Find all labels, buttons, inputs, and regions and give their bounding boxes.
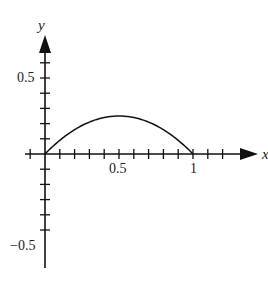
x-axis-label: x [261, 146, 268, 162]
chart-canvas: x y 0.5 1 0.5 −0.5 [0, 0, 268, 283]
y-axis-label: y [36, 17, 45, 33]
function-curve [45, 116, 193, 154]
y-tick-label-neg-0.5: −0.5 [10, 238, 35, 253]
x-tick-label-1: 1 [190, 161, 197, 176]
x-axis-arrow-icon [240, 148, 258, 160]
y-axis-arrow-icon [39, 35, 51, 53]
tick-marks [30, 63, 222, 230]
x-tick-label-0.5: 0.5 [109, 161, 127, 176]
y-tick-label-0.5: 0.5 [17, 70, 35, 85]
